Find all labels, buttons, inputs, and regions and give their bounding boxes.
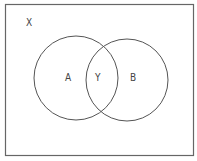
set-a-label: A xyxy=(65,72,72,83)
set-a-circle xyxy=(34,36,118,120)
venn-diagram: X A Y B xyxy=(0,0,197,161)
universe-label: X xyxy=(26,17,32,28)
intersection-label: Y xyxy=(94,72,101,83)
set-b-label: B xyxy=(130,72,136,83)
